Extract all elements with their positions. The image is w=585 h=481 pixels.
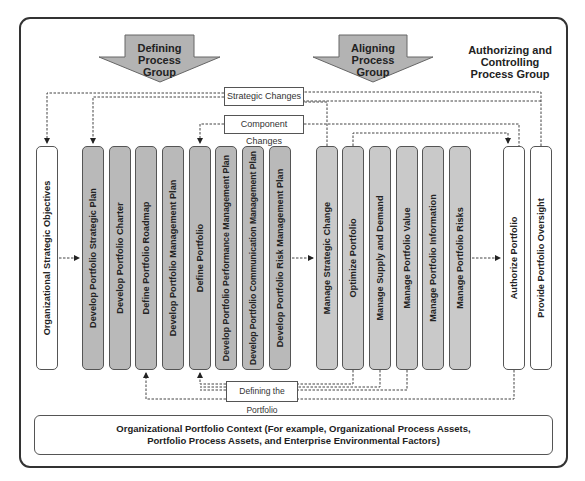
process-label: Develop Portfolio Performance Management… [221, 155, 231, 361]
component-changes-to-define-portfolio [200, 124, 224, 143]
context-line-1: Organizational Portfolio Context (For ex… [35, 423, 552, 435]
authorizing-group-label-1: Authorizing and Controlling [440, 44, 580, 68]
process-label: Develop Portfolio Strategic Plan [88, 188, 98, 328]
process-label: Manage Portfolio Risks [455, 207, 465, 309]
process-define-portfolio: Define Portfolio [189, 146, 211, 370]
aligning-group-label-1: Aligning [339, 42, 407, 54]
process-label: Develop Portfolio Management Plan [168, 180, 178, 337]
aligning-group-label-2: Process Group [339, 54, 407, 78]
optimize-to-defining-portfolio [298, 370, 353, 384]
process-label: Authorize Portfolio [509, 217, 519, 300]
defining-group-label-2: Process Group [125, 54, 194, 78]
process-label: Define Portfolio Roadmap [141, 202, 151, 315]
strategic-changes-from-manage-change [304, 102, 327, 146]
process-manage-portfolio-value: Manage Portfolio Value [396, 146, 418, 370]
process-provide-portfolio-oversight: Provide Portfolio Oversight [530, 146, 552, 370]
context-line-2: Portfolio Process Assets, and Enterprise… [35, 435, 552, 447]
process-define-portfolio-roadmap: Define Portfolio Roadmap [135, 146, 157, 370]
process-develop-portfolio-risk-management-plan: Develop Portfolio Risk Management Plan [269, 146, 291, 370]
strategic-changes-from-oversight [304, 92, 541, 146]
strategic-changes-to-objectives [47, 93, 224, 143]
process-label: Manage Portfolio Value [402, 207, 412, 308]
defining-group-label-1: Defining [125, 42, 194, 54]
aligning-group-arrow: Aligning Process Group [339, 42, 407, 70]
process-manage-portfolio-risks: Manage Portfolio Risks [449, 146, 471, 370]
defining-portfolio-to-roadmap [146, 373, 226, 399]
process-manage-strategic-change: Manage Strategic Change [316, 146, 338, 370]
strategic-changes-to-strategic-plan [93, 97, 224, 143]
process-authorize-portfolio: Authorize Portfolio [503, 146, 525, 370]
optimize-to-authorize [353, 133, 508, 146]
process-develop-portfolio-performance-management-plan: Develop Portfolio Performance Management… [215, 146, 237, 370]
process-manage-portfolio-information: Manage Portfolio Information [422, 146, 444, 370]
defining-group-arrow: Defining Process Group [125, 42, 194, 70]
process-develop-portfolio-strategic-plan: Develop Portfolio Strategic Plan [82, 146, 104, 370]
process-label: Develop Portfolio Communication Manageme… [248, 151, 258, 365]
strategic-changes-label: Strategic Changes [224, 87, 304, 106]
process-develop-portfolio-communication-management-plan: Develop Portfolio Communication Manageme… [242, 146, 264, 370]
process-label: Manage Strategic Change [322, 202, 332, 314]
process-develop-portfolio-management-plan: Develop Portfolio Management Plan [162, 146, 184, 370]
process-manage-supply-and-demand: Manage Supply and Demand [369, 146, 391, 370]
process-label: Define Portfolio [195, 224, 205, 292]
process-label: Manage Portfolio Information [428, 194, 438, 322]
process-label: Provide Portfolio Oversight [536, 198, 546, 317]
org-strategic-objectives-box: Organizational Strategic Objectives [36, 146, 58, 370]
component-changes-from-authorize [304, 124, 519, 146]
defining-portfolio-to-define [200, 373, 226, 384]
process-label: Develop Portfolio Risk Management Plan [275, 169, 285, 348]
authorizing-group-title: Authorizing and Controlling Process Grou… [440, 44, 580, 80]
org-strategic-objectives-label: Organizational Strategic Objectives [42, 181, 52, 336]
authorizing-group-label-2: Process Group [440, 68, 580, 80]
process-label: Manage Supply and Demand [375, 195, 385, 320]
organizational-portfolio-context-box: Organizational Portfolio Context (For ex… [34, 415, 553, 455]
process-label: Optimize Portfolio [348, 218, 358, 297]
process-optimize-portfolio: Optimize Portfolio [342, 146, 364, 370]
process-label: Develop Portfolio Charter [115, 202, 125, 313]
component-changes-label: Component Changes [224, 115, 304, 134]
defining-the-portfolio-label: Defining the Portfolio [226, 381, 298, 402]
process-develop-portfolio-charter: Develop Portfolio Charter [109, 146, 131, 370]
